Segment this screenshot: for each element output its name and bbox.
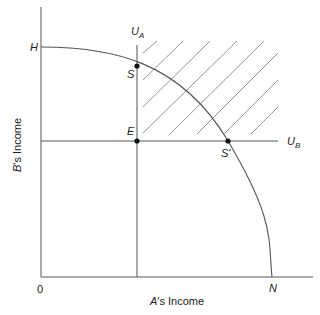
utility-possibility-diagram: H S E S' N 0 UA UB A's Income B's Income (0, 0, 320, 315)
label-e: E (127, 125, 135, 137)
label-ub: UB (287, 135, 301, 150)
y-axis-label: B's Income (11, 118, 23, 172)
point-s-prime (225, 138, 230, 143)
label-h: H (30, 41, 38, 53)
label-s-prime: S' (221, 147, 231, 159)
possibility-frontier-curve (41, 47, 272, 277)
label-n: N (269, 282, 277, 294)
hatched-region (143, 41, 278, 134)
label-ua: UA (131, 25, 144, 40)
x-axis-label: A's Income (149, 295, 204, 307)
point-e (134, 138, 139, 143)
label-origin: 0 (37, 283, 43, 295)
point-s (134, 63, 139, 68)
label-s: S (127, 68, 135, 80)
